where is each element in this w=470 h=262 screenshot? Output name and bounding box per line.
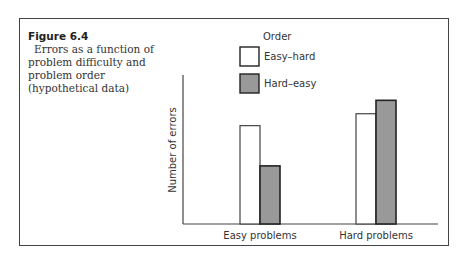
bar-easy-problems-easy-hard [240,126,260,224]
legend-title: Order [263,31,292,42]
legend-swatch-hard-easy [240,74,259,93]
x-tick-label: Hard problems [339,230,413,241]
legend-swatch-easy-hard [240,47,259,66]
bar-hard-problems-easy-hard [356,114,376,224]
legend: Order Easy–hardHard–easy [240,31,316,93]
bar-chart: Number of errors Order Easy–hardHard–eas… [0,0,470,262]
bar-hard-problems-hard-easy [376,100,396,224]
bar-easy-problems-hard-easy [260,166,280,224]
legend-label-easy-hard: Easy–hard [264,51,315,62]
legend-label-hard-easy: Hard–easy [264,78,316,89]
x-tick-label: Easy problems [223,230,296,241]
y-axis-label: Number of errors [167,107,178,193]
